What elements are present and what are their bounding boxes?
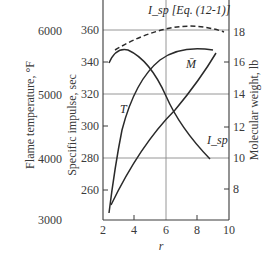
x-tick-4: 4 (131, 223, 137, 237)
curves (109, 26, 224, 213)
temperature-axis-tick-labels: 6000 5000 4000 3000 (38, 24, 62, 227)
molecular-weight-axis-tick-labels: 18 16 14 12 10 8 (233, 25, 245, 196)
isp-tick-300: 300 (81, 119, 99, 133)
isp-axis-label: Specific impulse, sec (65, 74, 79, 176)
rocket-performance-chart: 2 4 6 8 10 r 360 340 320 300 280 260 Spe… (0, 0, 270, 257)
curve-molecular-weight (111, 53, 216, 205)
isp-tick-260: 260 (81, 183, 99, 197)
mw-tick-10: 10 (233, 151, 245, 165)
x-tick-8: 8 (194, 223, 200, 237)
mw-tick-14: 14 (233, 87, 245, 101)
temp-tick-6000: 6000 (38, 24, 62, 38)
label-isp-eq-12-1: I_sp [Eq. (12-1)] (147, 3, 231, 17)
mw-tick-16: 16 (233, 55, 245, 69)
x-tick-6: 6 (163, 223, 169, 237)
label-molecular-weight: M̄ (185, 57, 197, 71)
mw-tick-8: 8 (233, 182, 239, 196)
isp-tick-360: 360 (81, 23, 99, 37)
x-axis-label: r (159, 239, 164, 253)
x-axis-tick-labels: 2 4 6 8 10 (100, 223, 235, 237)
curve-flame-temperature (109, 49, 213, 213)
temp-tick-3000: 3000 (38, 213, 62, 227)
temp-tick-5000: 5000 (38, 88, 62, 102)
isp-tick-280: 280 (81, 151, 99, 165)
label-isp: I_sp (206, 133, 228, 147)
molecular-weight-axis-label: Molecular weight, lb (247, 60, 261, 160)
mw-tick-18: 18 (233, 25, 245, 39)
isp-tick-340: 340 (81, 55, 99, 69)
temperature-axis-label: Flame temperature, °F (23, 61, 37, 169)
mw-tick-12: 12 (233, 120, 245, 134)
isp-axis-tick-labels: 360 340 320 300 280 260 (81, 23, 99, 197)
isp-tick-320: 320 (81, 87, 99, 101)
x-tick-10: 10 (223, 223, 235, 237)
x-tick-2: 2 (100, 223, 106, 237)
temp-tick-4000: 4000 (38, 152, 62, 166)
